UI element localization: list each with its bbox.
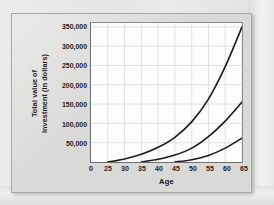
x-axis-tick-label: 0 [89,165,93,172]
plot-wrapper [90,22,243,163]
x-axis-tick-labels: 0253035404550556065 [90,165,245,177]
x-axis-tick-label: 50 [189,165,197,172]
x-axis-tick-label: 40 [155,165,163,172]
x-axis-tick-label: 55 [206,165,214,172]
plot-area [90,22,243,163]
y-axis-tick-label: 200,000 [62,81,87,88]
y-axis-title-line-1: Total value of [30,69,39,116]
y-axis-tick-label: 150,000 [62,101,87,108]
x-axis-title: Age [90,177,243,186]
curve-start-age-25 [108,27,242,162]
x-axis-tick-label: 25 [104,165,112,172]
y-axis-tick-labels: 350,000300,000250,000200,000150,000100,0… [44,14,89,174]
curve-start-age-35 [141,102,242,162]
x-axis-tick-label: 45 [172,165,180,172]
x-axis-tick-label: 35 [138,165,146,172]
curve-start-age-45 [175,138,242,162]
x-axis-tick-label: 30 [121,165,129,172]
x-axis-tick-label: 65 [240,165,248,172]
y-axis-tick-label: 50,000 [66,140,87,147]
investment-growth-curves [91,23,242,162]
y-axis-tick-label: 250,000 [62,62,87,69]
chart-figure-panel: Total value of investment (in dollars) 3… [11,13,252,193]
y-axis-tick-label: 350,000 [62,22,87,29]
x-axis-tick-label: 60 [223,165,231,172]
figure-page: Total value of investment (in dollars) 3… [0,0,274,205]
y-axis-tick-label: 100,000 [62,120,87,127]
y-axis-tick-label: 300,000 [62,42,87,49]
